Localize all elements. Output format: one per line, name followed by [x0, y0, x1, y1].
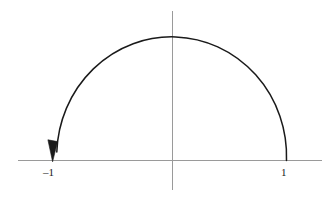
figure-canvas: –1 1 [0, 0, 335, 204]
semicircle-curve [57, 37, 287, 161]
x-tick-label-minus-one: –1 [43, 167, 54, 178]
x-tick-label-one: 1 [281, 167, 287, 178]
